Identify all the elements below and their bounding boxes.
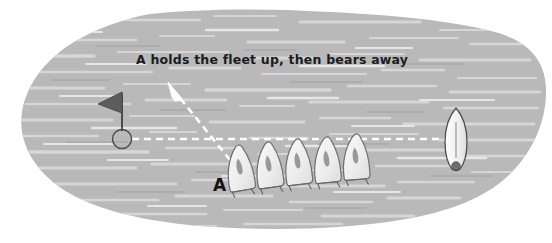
boat-label-a: A — [213, 175, 227, 195]
sailing-tactics-diagram: A holds the fleet up, then bears away A — [0, 0, 552, 243]
caption-text: A holds the fleet up, then bears away — [136, 52, 408, 67]
water-area — [0, 0, 552, 243]
diagram-canvas: A holds the fleet up, then bears away A — [0, 0, 552, 243]
